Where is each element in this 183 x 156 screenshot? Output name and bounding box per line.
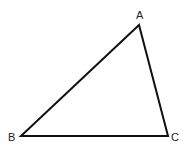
triangle-abc: [21, 25, 168, 136]
vertex-label-a: A: [136, 9, 144, 21]
vertex-label-b: B: [8, 131, 15, 143]
vertex-label-c: C: [171, 131, 179, 143]
triangle-diagram: A B C: [0, 0, 183, 156]
